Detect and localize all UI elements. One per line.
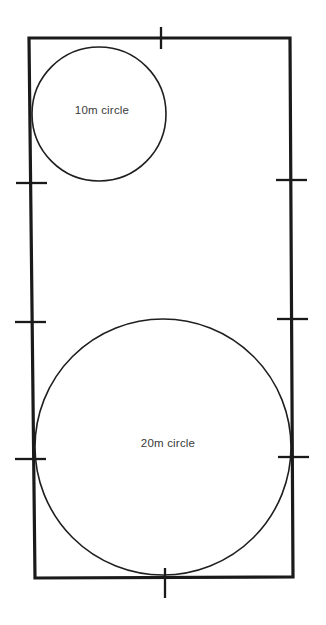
pitch-diagram-canvas: 10m circle20m circle [0,0,326,625]
20m-circle-label: 20m circle [141,437,195,449]
10m-circle-label: 10m circle [75,104,129,116]
pitch-diagram: 10m circle20m circle [0,0,326,625]
